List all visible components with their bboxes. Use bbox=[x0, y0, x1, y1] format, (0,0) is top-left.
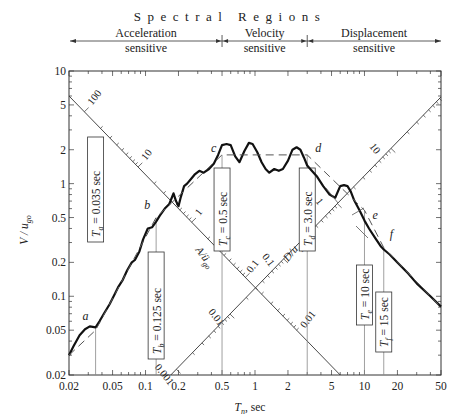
arrowhead-icon bbox=[308, 39, 313, 43]
deformation-axis-tick bbox=[391, 148, 395, 152]
y-tick-label: 10 bbox=[55, 65, 67, 77]
acceleration-axis-tick bbox=[192, 218, 196, 222]
deformation-axis-tick bbox=[353, 187, 355, 189]
x-tick-label: 0.1 bbox=[138, 380, 153, 392]
acceleration-axis-tick bbox=[84, 108, 88, 112]
acceleration-axis-label: 0.01 bbox=[298, 309, 318, 330]
y-tick-label: 2 bbox=[60, 144, 66, 156]
region-acceleration-sublabel: sensitive bbox=[125, 41, 167, 55]
deformation-axis-tick bbox=[246, 297, 248, 299]
point-label-a: a bbox=[83, 309, 89, 323]
y-tick-label: 0.5 bbox=[52, 212, 67, 224]
acceleration-axis-tick bbox=[100, 126, 102, 128]
deformation-axis-tick bbox=[268, 275, 270, 277]
deformation-axis-tick bbox=[281, 261, 283, 263]
arrowhead-icon bbox=[301, 39, 306, 43]
deformation-axis-tick bbox=[423, 115, 425, 117]
acceleration-axis-tick bbox=[245, 273, 249, 277]
deformation-axis-tick bbox=[436, 102, 438, 104]
x-tick-label: 0.05 bbox=[103, 380, 123, 392]
acceleration-axis-label: 10 bbox=[139, 147, 154, 162]
x-tick-label: 10 bbox=[359, 380, 371, 392]
region-velocity-label: Velocity bbox=[245, 26, 285, 40]
deformation-axis-tick bbox=[375, 165, 377, 167]
region-velocity-sublabel: sensitive bbox=[244, 41, 286, 55]
arrowhead-icon bbox=[216, 39, 221, 43]
guide-tick bbox=[356, 226, 368, 238]
point-label-b: b bbox=[144, 198, 150, 212]
region-displacement-label: Displacement bbox=[341, 26, 408, 40]
deformation-axis-tick bbox=[192, 353, 194, 355]
deformation-axis-tick bbox=[316, 226, 318, 228]
y-tick-label: 5 bbox=[60, 99, 66, 111]
acceleration-axis-tick bbox=[240, 270, 242, 272]
arrowhead-right-icon bbox=[435, 39, 441, 43]
y-tick-label: 0.05 bbox=[46, 324, 66, 336]
acceleration-axis-tick bbox=[278, 309, 280, 311]
acceleration-axis-tick bbox=[261, 292, 263, 294]
acceleration-axis-tick bbox=[110, 136, 112, 138]
x-tick-label: 2 bbox=[285, 380, 291, 392]
deformation-axis-tick bbox=[332, 209, 334, 211]
chart-title: Spectral Regions bbox=[134, 9, 326, 24]
region-displacement-sublabel: sensitive bbox=[353, 41, 395, 55]
spectral-regions-header: Spectral RegionsAccelerationsensitiveVel… bbox=[70, 9, 441, 55]
deformation-axis-tick bbox=[325, 216, 327, 218]
tripartite-response-spectrum-chart: Spectral RegionsAccelerationsensitiveVel… bbox=[0, 0, 461, 420]
deformation-axis-tick bbox=[214, 331, 216, 333]
deformation-axis-tick bbox=[230, 314, 234, 318]
x-axis-title: Tn, sec bbox=[235, 401, 266, 416]
point-label-c: c bbox=[211, 141, 217, 155]
acceleration-axis-tick bbox=[291, 322, 293, 324]
acceleration-axis-tick bbox=[297, 328, 299, 330]
acceleration-axis-tick bbox=[183, 212, 185, 214]
acceleration-axis-label: 0.1 bbox=[244, 258, 261, 275]
arrowhead-left-icon bbox=[70, 39, 76, 43]
acceleration-axis-label: 1 bbox=[193, 207, 205, 218]
point-label-e: e bbox=[372, 208, 378, 222]
acceleration-axis-tick bbox=[224, 253, 226, 255]
period-markers: Ta = 0.035 secaTb = 0.125 secbTc = 0.5 s… bbox=[83, 137, 395, 375]
acceleration-axis-tick bbox=[117, 143, 119, 145]
x-tick-label: 50 bbox=[435, 380, 447, 392]
deformation-axis-tick bbox=[262, 281, 264, 283]
deformation-axis-tick bbox=[275, 267, 277, 269]
deformation-axis-label: 0.1 bbox=[260, 251, 277, 268]
acceleration-axis-tick bbox=[237, 267, 239, 269]
point-label-f: f bbox=[390, 227, 395, 241]
y-tick-label: 1 bbox=[60, 178, 66, 190]
deformation-axis-tick bbox=[363, 177, 365, 179]
acceleration-axis-tick bbox=[138, 163, 142, 167]
y-axis-title: V / ugo bbox=[18, 215, 33, 245]
acceleration-axis-tick bbox=[136, 162, 138, 164]
x-tick-label: 5 bbox=[329, 380, 335, 392]
deformation-axis-tick bbox=[329, 212, 331, 214]
acceleration-axis-tick bbox=[233, 263, 235, 265]
deformation-axis-tick bbox=[278, 264, 280, 266]
acceleration-axis-tick bbox=[208, 237, 210, 239]
deformation-axis-tick bbox=[407, 132, 409, 134]
acceleration-axis-tick bbox=[130, 156, 132, 158]
deformation-axis-tick bbox=[389, 151, 391, 153]
acceleration-axis-tick bbox=[180, 208, 182, 210]
deformation-axis-tick bbox=[386, 154, 388, 156]
deformation-axis-tick bbox=[370, 170, 372, 172]
point-label-d: d bbox=[315, 141, 322, 155]
deformation-axis-tick bbox=[321, 220, 323, 222]
y-tick-label: 0.2 bbox=[52, 256, 67, 268]
deformation-axis-tick bbox=[209, 336, 211, 338]
acceleration-axis-tick bbox=[164, 191, 166, 193]
acceleration-axis-tick bbox=[229, 259, 231, 261]
acceleration-axis-tick bbox=[186, 215, 188, 217]
deformation-axis-tick bbox=[228, 317, 230, 319]
deformation-axis-tick bbox=[337, 204, 341, 208]
deformation-axis-tick bbox=[335, 206, 337, 208]
y-tick-label: 0.1 bbox=[52, 290, 67, 302]
acceleration-axis-label: 100 bbox=[85, 88, 103, 107]
x-tick-label: 0.5 bbox=[215, 380, 230, 392]
acceleration-axis-tick bbox=[122, 148, 124, 150]
acceleration-axis-tick bbox=[294, 325, 296, 327]
acceleration-axis-tick bbox=[271, 302, 273, 304]
deformation-axis-tick bbox=[429, 110, 431, 112]
acceleration-axis-tick bbox=[189, 218, 191, 220]
